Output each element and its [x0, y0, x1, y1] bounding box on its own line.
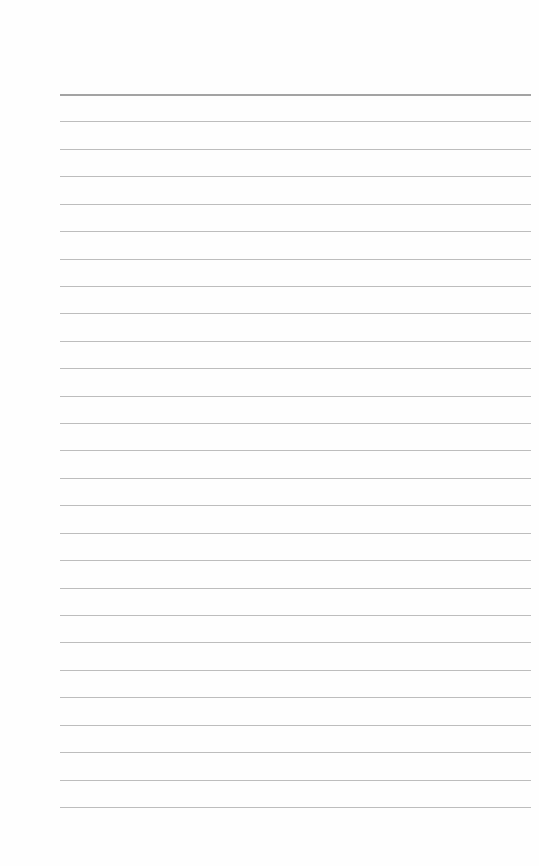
rule-line [60, 231, 531, 232]
rule-line [60, 560, 531, 561]
rule-line [60, 725, 531, 726]
rule-line [60, 286, 531, 287]
rule-line [60, 423, 531, 424]
rule-line [60, 588, 531, 589]
rule-line [60, 149, 531, 150]
rule-line [60, 204, 531, 205]
rule-line [60, 176, 531, 177]
rule-line [60, 121, 531, 122]
rule-line [60, 670, 531, 671]
rule-line [60, 341, 531, 342]
rule-line [60, 752, 531, 753]
rule-line [60, 396, 531, 397]
rule-line [60, 697, 531, 698]
rule-line [60, 780, 531, 781]
rule-line [60, 478, 531, 479]
rule-line [60, 615, 531, 616]
rule-line [60, 259, 531, 260]
rule-line [60, 642, 531, 643]
rule-line [60, 450, 531, 451]
lined-paper-sheet [0, 0, 539, 866]
rule-line [60, 807, 531, 808]
header-rule-line [60, 94, 531, 96]
rule-line [60, 368, 531, 369]
rule-line [60, 533, 531, 534]
rule-line [60, 313, 531, 314]
rule-line [60, 505, 531, 506]
